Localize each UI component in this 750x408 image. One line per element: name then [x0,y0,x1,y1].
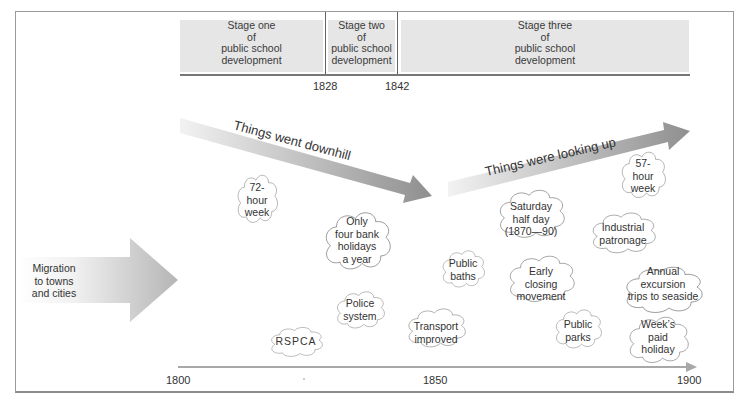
cloud-line: trips to seaside [620,290,706,303]
cloud-line: Early [506,265,576,278]
cloud-line: four bank [322,228,392,241]
cloud-line: week [618,182,668,195]
cloud-annual-excursion-text: Annual excursion trips to seaside [620,265,706,303]
cloud-line: holidays [322,240,392,253]
cloud-line: Week’s [628,318,688,331]
cloud-public-parks-text: Public parks [553,318,603,343]
cloud-police-system-text: Police system [330,297,390,322]
cloud-early-closing-text: Early closing movement [506,265,576,303]
cloud-line: baths [438,270,488,283]
timeline-tick-1900: 1900 [677,374,701,386]
cloud-weeks-paid-holiday-text: Week’s paid holiday [628,318,688,356]
cloud-line: system [330,310,390,323]
cloud-line: movement [506,290,576,303]
cloud-line: Only [322,215,392,228]
cloud-line: week [232,206,282,219]
cloud-line: Public [553,318,603,331]
cloud-line: a year [322,253,392,266]
cloud-line: hour [232,194,282,207]
cloud-57-hour-week-text: 57- hour week [618,157,668,195]
timeline-tick-1800: 1800 [166,374,190,386]
cloud-line: Annual [620,265,706,278]
migration-line: to towns [24,275,84,288]
cloud-line: patronage [588,234,658,247]
cloud-line: holiday [628,343,688,356]
cloud-line: Public [438,257,488,270]
timeline-tick-1850: 1850 [423,374,447,386]
cloud-line: hour [618,170,668,183]
cloud-line: 72- [232,181,282,194]
cloud-industrial-patronage-text: Industrial patronage [588,221,658,246]
cloud-line: Saturday [496,200,566,213]
cloud-line: closing [506,278,576,291]
cloud-line: improved [404,333,468,346]
cloud-line: half day [496,213,566,226]
cloud-line: RSPCA [266,335,326,348]
cloud-line: parks [553,331,603,344]
cloud-line: (1870—90) [496,225,566,238]
cloud-line: paid [628,331,688,344]
cloud-public-baths-text: Public baths [438,257,488,282]
cloud-72-hour-week-text: 72- hour week [232,181,282,219]
migration-label: Migration to towns and cities [24,262,84,300]
cloud-saturday-half-day-text: Saturday half day (1870—90) [496,200,566,238]
cloud-rspca-text: RSPCA [266,335,326,348]
cloud-line: Industrial [588,221,658,234]
cloud-line: Police [330,297,390,310]
cloud-transport-text: Transport improved [404,320,468,345]
cloud-line: excursion [620,278,706,291]
cloud-line: Transport [404,320,468,333]
cloud-bank-holidays-text: Only four bank holidays a year [322,215,392,265]
downhill-arrow [180,118,432,203]
cloud-line: 57- [618,157,668,170]
migration-line: Migration [24,262,84,275]
migration-line: and cities [24,287,84,300]
